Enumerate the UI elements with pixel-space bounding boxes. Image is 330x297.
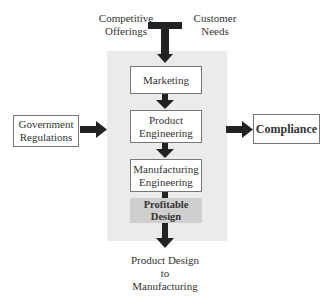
marketing-box: Marketing (130, 66, 202, 94)
down-arrow-icon (156, 94, 174, 109)
product-engineering-box: Product Engineering (130, 110, 202, 143)
competitive-offerings-label: Competitive Offerings (86, 12, 166, 38)
compliance-box: Compliance (253, 114, 320, 144)
down-arrow-icon (156, 143, 174, 158)
down-arrow-icon (156, 222, 174, 248)
government-regulations-box: Government Regulations (13, 115, 79, 147)
right-arrow-icon (80, 121, 107, 138)
right-arrow-icon (226, 121, 253, 138)
arrows-layer (0, 0, 330, 297)
product-design-to-manufacturing-label: Product Design to Manufacturing (115, 254, 215, 293)
customer-needs-label: Customer Needs (185, 12, 245, 38)
manufacturing-engineering-box: Manufacturing Engineering (130, 159, 202, 192)
profitable-design-box: Profitable Design (130, 198, 202, 223)
